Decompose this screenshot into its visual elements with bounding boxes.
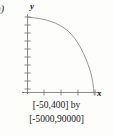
part-label: b) [0, 2, 4, 14]
y-axis-label: y [30, 1, 34, 11]
viewing-window-caption-line-2: [-5000,90000] [0, 114, 113, 124]
data-curve [28, 17, 95, 95]
viewing-window-caption-line-1: [-50,400] by [0, 100, 113, 110]
x-axis-label: x [97, 88, 102, 98]
x-axis [22, 90, 101, 96]
figure-panel: b) y x [-50,400] by [-5000,90000] [0, 0, 113, 137]
y-axis [25, 14, 31, 94]
